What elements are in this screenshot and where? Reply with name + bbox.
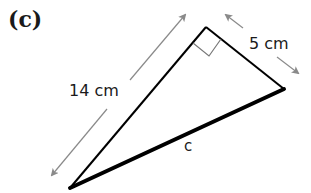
long-leg — [70, 27, 206, 188]
hypotenuse — [70, 89, 284, 188]
part-label: (c) — [8, 6, 42, 32]
short-leg-label: 5 cm — [249, 34, 289, 53]
long-leg-label: 14 cm — [69, 81, 119, 100]
triangle-diagram — [0, 0, 311, 193]
right-angle-marker — [193, 39, 221, 56]
hypotenuse-label: c — [184, 137, 192, 155]
